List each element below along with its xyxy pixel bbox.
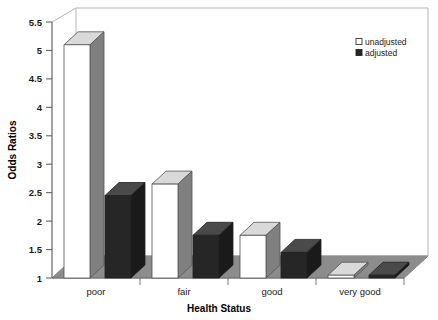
chart-canvas: 1 1.5 2 2.5 3 3.5 4 4.5 5 5.5 Odds Ratio… bbox=[0, 0, 438, 320]
y-axis-tick-labels: 1 1.5 2 2.5 3 3.5 4 4.5 5 5.5 bbox=[29, 17, 43, 284]
y-tick-label: 2 bbox=[37, 216, 42, 227]
y-tick-label: 3.5 bbox=[29, 130, 43, 141]
legend-label-unadjusted: unadjusted bbox=[365, 37, 407, 47]
bar-good-unadjusted bbox=[240, 222, 280, 278]
y-tick-label: 1.5 bbox=[29, 244, 43, 255]
odds-ratio-bar-chart: 1 1.5 2 2.5 3 3.5 4 4.5 5 5.5 Odds Ratio… bbox=[0, 0, 438, 320]
y-tick-label: 1 bbox=[37, 273, 43, 284]
wall-left-diagonal bbox=[52, 8, 76, 22]
y-tick-label: 5 bbox=[37, 45, 43, 56]
x-axis-title: Health Status bbox=[187, 303, 251, 314]
y-axis-ticks bbox=[46, 22, 52, 278]
legend-marker-unadjusted bbox=[356, 39, 362, 45]
legend-marker-adjusted bbox=[356, 50, 362, 56]
y-tick-label: 3 bbox=[37, 159, 42, 170]
x-category-label: poor bbox=[86, 286, 105, 297]
bar-fair-unadjusted bbox=[152, 171, 192, 278]
legend-label-adjusted: adjusted bbox=[365, 48, 397, 58]
bar-poor-unadjusted bbox=[64, 32, 104, 278]
y-axis-title: Odds Ratios bbox=[7, 120, 18, 179]
y-tick-label: 2.5 bbox=[29, 187, 43, 198]
x-category-label: good bbox=[261, 286, 282, 297]
y-tick-label: 5.5 bbox=[29, 17, 43, 28]
x-category-label: very good bbox=[339, 286, 381, 297]
bar-poor-adjusted bbox=[105, 183, 145, 279]
x-axis-category-labels: poor fair good very good bbox=[86, 286, 380, 297]
y-tick-label: 4 bbox=[37, 102, 43, 113]
x-category-label: fair bbox=[177, 286, 190, 297]
bar-fair-adjusted bbox=[193, 222, 233, 278]
x-axis-category-ticks bbox=[140, 278, 404, 285]
y-tick-label: 4.5 bbox=[29, 73, 43, 84]
